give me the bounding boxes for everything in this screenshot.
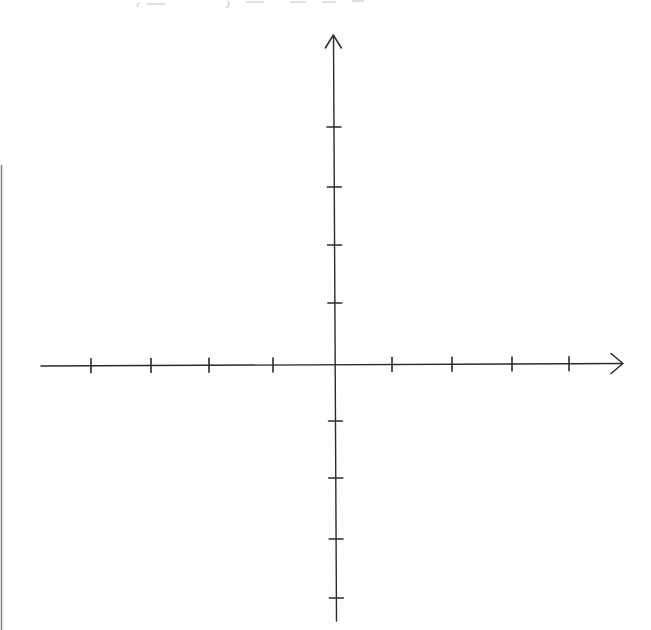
y-axis	[325, 35, 343, 621]
x-axis	[41, 354, 623, 374]
x-axis-line	[41, 364, 622, 367]
coordinate-plane	[0, 0, 651, 630]
clipped-header-text	[137, 1, 364, 8]
y-axis-line	[334, 36, 337, 621]
